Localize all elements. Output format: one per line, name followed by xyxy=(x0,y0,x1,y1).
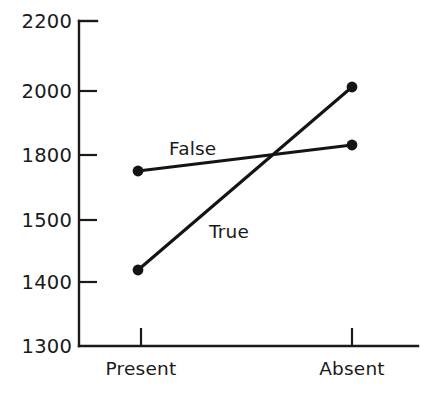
chart-container: 2200 2000 1800 1500 1400 1300 Present Ab… xyxy=(0,0,434,404)
line-chart: 2200 2000 1800 1500 1400 1300 Present Ab… xyxy=(0,0,434,404)
data-point-false-absent xyxy=(347,140,358,151)
data-point-false-present xyxy=(133,166,144,177)
x-tick-label-present: Present xyxy=(106,358,177,379)
series-label-false: False xyxy=(169,138,216,159)
y-tick-label-1400: 1400 xyxy=(22,271,72,294)
y-tick-label-1800: 1800 xyxy=(22,144,72,167)
series-line-true xyxy=(138,87,352,270)
x-tick-label-absent: Absent xyxy=(319,358,385,379)
y-tick-label-1300: 1300 xyxy=(22,335,72,358)
data-point-true-absent xyxy=(347,82,358,93)
data-point-true-present xyxy=(133,265,144,276)
y-tick-label-1500: 1500 xyxy=(22,209,72,232)
y-tick-label-2000: 2000 xyxy=(22,80,72,103)
y-tick-label-2200: 2200 xyxy=(22,10,72,33)
series-label-true: True xyxy=(208,221,249,242)
